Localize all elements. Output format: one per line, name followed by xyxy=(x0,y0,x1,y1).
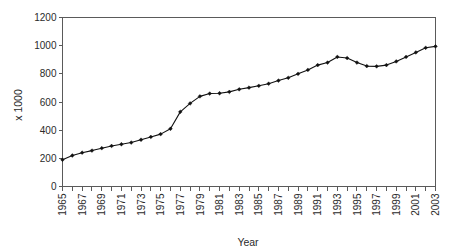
data-point-marker xyxy=(385,63,389,67)
x-tick-label: 1989 xyxy=(293,193,304,216)
x-tick-label: 1973 xyxy=(136,193,147,216)
data-point-marker xyxy=(90,149,94,153)
y-tick-label: 0 xyxy=(51,181,57,192)
data-point-marker xyxy=(139,138,143,142)
x-axis-title: Year xyxy=(237,236,259,248)
data-point-marker xyxy=(149,135,153,139)
data-point-marker xyxy=(267,82,271,86)
y-tick-label: 800 xyxy=(40,68,57,79)
x-tick-label: 1995 xyxy=(352,193,363,216)
x-tick-label: 1991 xyxy=(312,193,323,216)
data-point-marker xyxy=(110,144,114,148)
data-point-marker xyxy=(404,55,408,59)
data-point-marker xyxy=(80,151,84,155)
y-tick-label: 600 xyxy=(40,97,57,108)
data-point-marker xyxy=(306,68,310,72)
data-point-marker xyxy=(286,76,290,80)
data-point-marker xyxy=(208,92,212,96)
plot-frame xyxy=(63,18,436,187)
y-tick-label: 200 xyxy=(40,153,57,164)
x-tick-label: 1971 xyxy=(116,193,127,216)
data-point-marker xyxy=(355,61,359,65)
data-point-marker xyxy=(424,46,428,50)
x-tick-label: 1969 xyxy=(96,193,107,216)
series-line xyxy=(63,46,436,159)
data-point-marker xyxy=(316,63,320,67)
data-point-marker xyxy=(365,64,369,68)
x-tick-label: 1993 xyxy=(332,193,343,216)
x-tick-label: 1977 xyxy=(175,193,186,216)
y-tick-label: 1200 xyxy=(34,12,57,23)
x-tick-label: 2003 xyxy=(430,193,441,216)
data-point-marker xyxy=(375,64,379,68)
data-point-marker xyxy=(257,84,261,88)
data-point-marker xyxy=(129,141,133,145)
data-point-marker xyxy=(218,91,222,95)
data-point-marker xyxy=(70,154,74,158)
x-tick-label: 1987 xyxy=(273,193,284,216)
data-point-marker xyxy=(119,142,123,146)
line-chart: 020040060080010001200 196519671969197119… xyxy=(0,0,453,252)
y-axis-title: x 1000 xyxy=(12,89,24,121)
x-axis-ticks xyxy=(63,187,436,191)
chart-container: 020040060080010001200 196519671969197119… xyxy=(0,0,453,252)
data-point-marker xyxy=(296,72,300,76)
data-series xyxy=(61,44,438,161)
x-tick-label: 1997 xyxy=(371,193,382,216)
data-point-marker xyxy=(227,90,231,94)
x-tick-label: 1979 xyxy=(195,193,206,216)
data-point-marker xyxy=(237,87,241,91)
data-point-marker xyxy=(394,60,398,64)
x-tick-label: 2001 xyxy=(410,193,421,216)
x-tick-label: 1965 xyxy=(57,193,68,216)
x-tick-label: 1975 xyxy=(155,193,166,216)
data-point-marker xyxy=(414,51,418,55)
data-point-marker xyxy=(100,146,104,150)
x-tick-label: 1983 xyxy=(234,193,245,216)
data-point-marker xyxy=(247,86,251,90)
x-tick-label: 1967 xyxy=(77,193,88,216)
data-point-marker xyxy=(434,44,438,48)
data-point-marker xyxy=(345,56,349,60)
x-axis-tick-labels: 1965196719691971197319751977197919811983… xyxy=(57,193,441,216)
x-tick-label: 1981 xyxy=(214,193,225,216)
x-tick-label: 1985 xyxy=(253,193,264,216)
data-point-marker xyxy=(277,79,281,83)
y-tick-label: 1000 xyxy=(34,40,57,51)
y-axis-tick-labels: 020040060080010001200 xyxy=(34,12,57,192)
x-tick-label: 1999 xyxy=(391,193,402,216)
y-tick-label: 400 xyxy=(40,125,57,136)
